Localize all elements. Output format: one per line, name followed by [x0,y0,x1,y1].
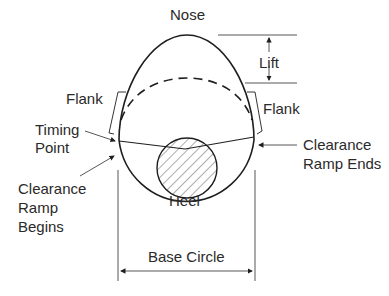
cam-profile-diagram: Lift Nose Flank Flank Timing Point Clear… [0,0,389,296]
base-circle-dashed-arc [121,78,252,120]
timing-point-label-line2: Point [35,139,70,156]
ramp-ends-label-line2: Ramp Ends [303,155,381,172]
base-circle-label: Base Circle [148,248,225,265]
heel-label: Heel [169,192,200,209]
lift-label: Lift [259,54,280,71]
ramp-ends-label-line1: Clearance [303,136,371,153]
timing-point-label-line1: Timing [35,121,79,138]
ramp-begins-label-line3: Begins [18,218,64,235]
flank-left-label: Flank [66,90,103,107]
nose-label: Nose [170,6,205,23]
flank-right-label: Flank [263,100,300,117]
ramp-begins-label-line2: Ramp [18,199,58,216]
ramp-begins-leader [80,156,114,176]
flank-right-bracket [247,92,262,134]
ramp-begins-label-line1: Clearance [18,180,86,197]
timing-point-leader [85,131,115,141]
